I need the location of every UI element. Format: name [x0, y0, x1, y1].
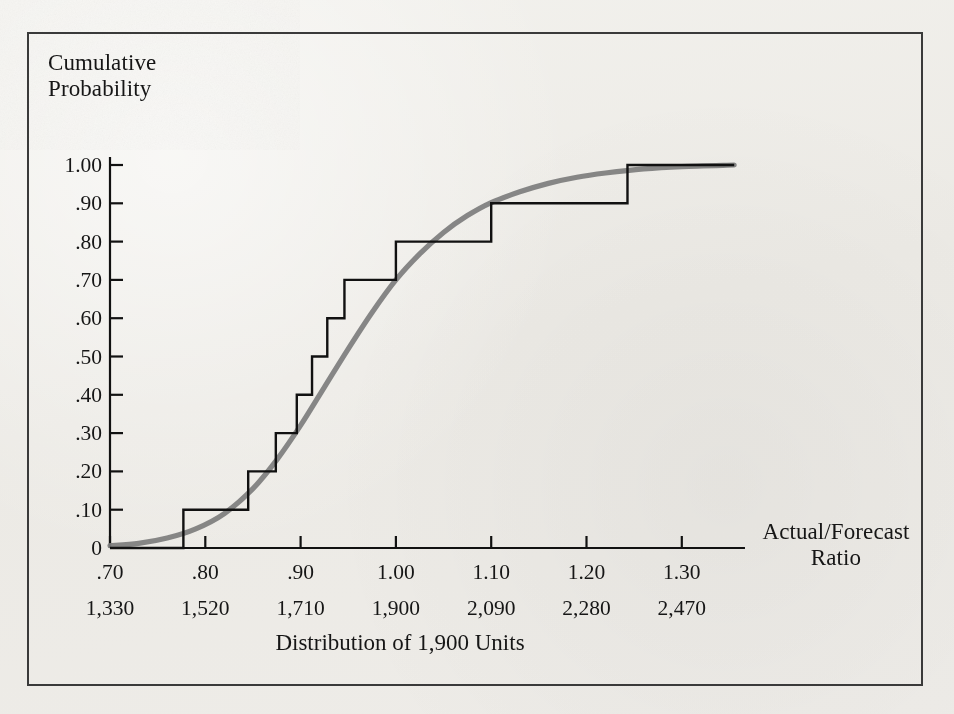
smooth-curve-series	[110, 165, 734, 546]
chart-svg-canvas	[0, 0, 954, 714]
step-function-series	[110, 165, 734, 548]
axes-group	[110, 157, 745, 548]
chart-plot-area: Cumulative Probability Actual/Forecast R…	[0, 0, 954, 714]
